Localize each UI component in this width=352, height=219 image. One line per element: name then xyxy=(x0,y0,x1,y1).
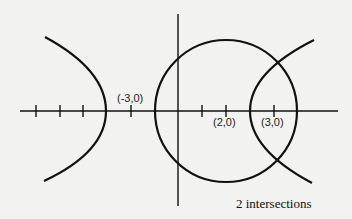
point-label-2: (2,0) xyxy=(213,117,236,128)
hyperbola-left-branch xyxy=(44,37,106,181)
point-label-neg3: (-3,0) xyxy=(117,93,143,104)
point-label-3: (3,0) xyxy=(261,117,284,128)
intersections-caption: 2 intersections xyxy=(236,197,311,210)
diagram-canvas: (-3,0) (2,0) (3,0) 2 intersections xyxy=(0,0,352,219)
diagram-graphics xyxy=(0,0,352,219)
